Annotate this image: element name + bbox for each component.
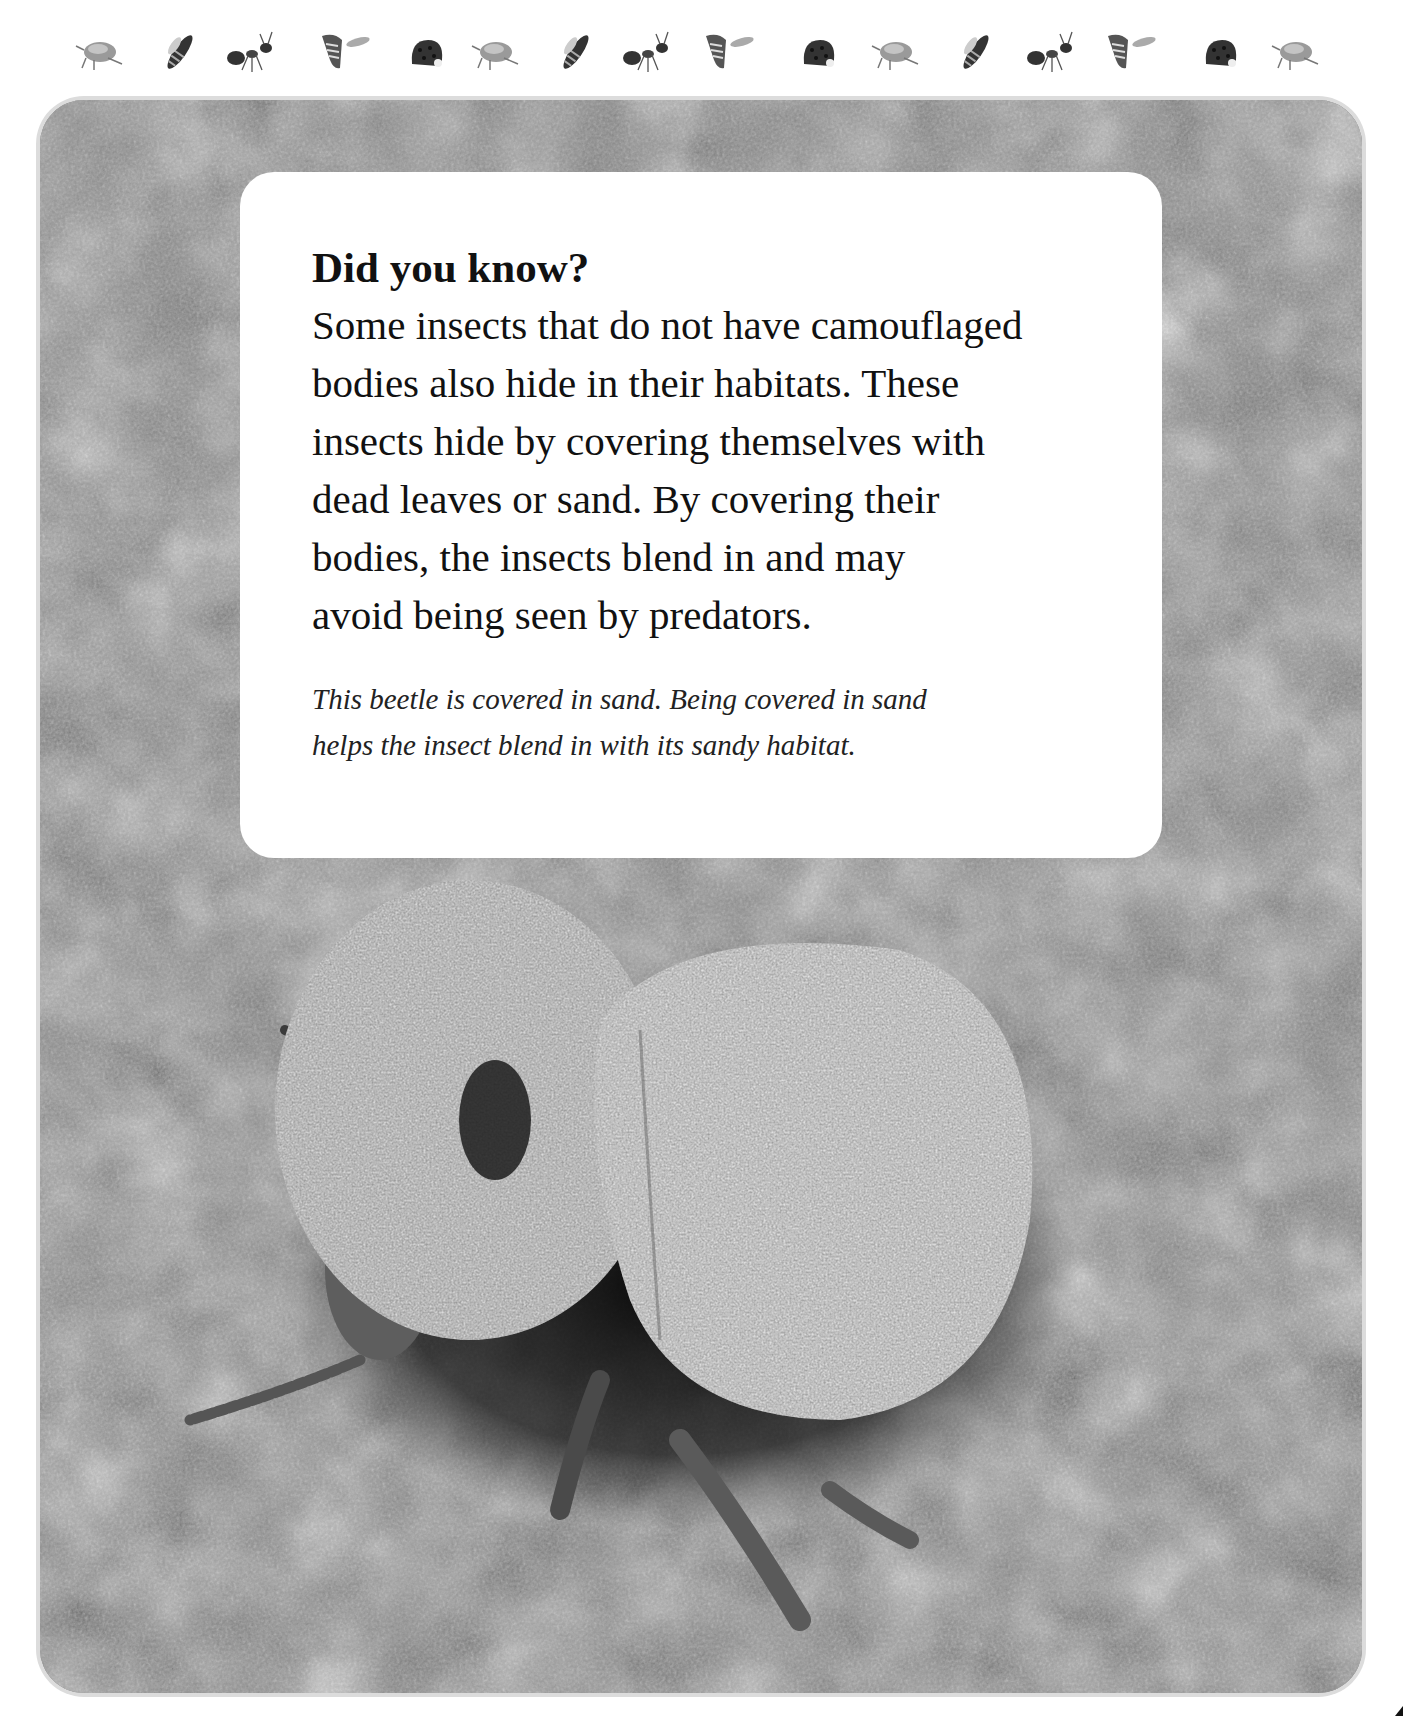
info-box-body: Some insects that do not have camouflage… (312, 296, 1112, 644)
fly-icon (696, 30, 756, 74)
insect-decoration-strip (0, 0, 1403, 100)
page-corner-mark (1395, 1706, 1403, 1716)
wasp-icon (546, 30, 606, 74)
wasp-icon (946, 30, 1006, 74)
body-line: avoid being seen by predators. (312, 586, 1112, 644)
ant-icon (222, 30, 282, 74)
body-line: Some insects that do not have camouflage… (312, 296, 1112, 354)
fly-icon (312, 30, 372, 74)
aphid-icon (72, 30, 132, 74)
ant-icon (618, 30, 678, 74)
aphid-icon (1268, 30, 1328, 74)
ant-icon (1022, 30, 1082, 74)
ladybug-icon (790, 30, 850, 74)
caption-line: helps the insect blend in with its sandy… (312, 722, 1122, 768)
wasp-icon (150, 30, 210, 74)
body-line: dead leaves or sand. By covering their (312, 470, 1112, 528)
aphid-icon (868, 30, 928, 74)
info-box-title: Did you know? (312, 240, 1122, 296)
ladybug-icon (1192, 30, 1252, 74)
aphid-icon (468, 30, 528, 74)
did-you-know-box: Did you know? Some insects that do not h… (240, 172, 1162, 858)
body-line: bodies also hide in their habitats. Thes… (312, 354, 1112, 412)
ladybug-icon (398, 30, 458, 74)
body-line: insects hide by covering themselves with (312, 412, 1112, 470)
caption-line: This beetle is covered in sand. Being co… (312, 676, 1122, 722)
body-line: bodies, the insects blend in and may (312, 528, 1112, 586)
fly-icon (1098, 30, 1158, 74)
photo-caption: This beetle is covered in sand. Being co… (312, 676, 1122, 768)
